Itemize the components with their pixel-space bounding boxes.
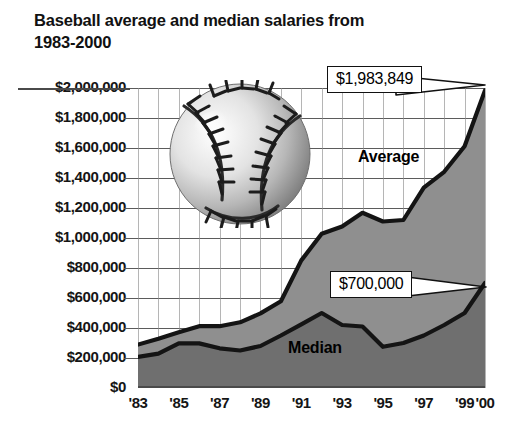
y-axis-label: $1,200,000 [55, 198, 126, 215]
y-axis-label: $0 [110, 378, 126, 395]
y-axis-tick [124, 238, 138, 239]
y-axis-label: $1,000,000 [55, 228, 126, 245]
x-axis-label: '89 [251, 394, 270, 411]
y-axis-tick [124, 358, 138, 359]
page-title: Baseball average and median salaries fro… [34, 10, 454, 54]
x-axis-label: '97 [414, 394, 433, 411]
y-axis-tick [124, 208, 138, 209]
x-axis-label: '85 [169, 394, 188, 411]
y-axis-label: $1,600,000 [55, 138, 126, 155]
y-axis-tick [124, 118, 138, 119]
y-axis-tick [124, 328, 138, 329]
y-axis-label: $200,000 [67, 348, 126, 365]
y-axis-tick [124, 298, 138, 299]
y-axis-label: $2,000,000 [55, 78, 126, 95]
gridline-vertical [485, 88, 486, 388]
y-axis-label: $800,000 [67, 258, 126, 275]
y-axis-label: $400,000 [67, 318, 126, 335]
x-axis: '83'85'87'89'91'93'95'97'99'00 [138, 394, 485, 422]
x-axis-baseline [138, 386, 485, 388]
x-axis-label: '83 [128, 394, 147, 411]
x-axis-label: '99 [455, 394, 474, 411]
series-label-median: Median [288, 339, 342, 357]
x-axis-label: '93 [333, 394, 352, 411]
x-axis-label: '91 [292, 394, 311, 411]
x-axis-label: '87 [210, 394, 229, 411]
y-axis-label: $600,000 [67, 288, 126, 305]
y-axis: $2,000,000$1,800,000$1,600,000$1,400,000… [0, 88, 132, 388]
chart-root: Baseball average and median salaries fro… [0, 0, 526, 431]
y-axis-label: $1,400,000 [55, 168, 126, 185]
callout-leader-line [18, 88, 130, 90]
callout-average-value: $1,983,849 [327, 66, 422, 93]
y-axis-tick [124, 148, 138, 149]
series-label-average: Average [358, 148, 419, 166]
callout-median-value: $700,000 [330, 271, 412, 298]
x-axis-label: '95 [373, 394, 392, 411]
x-axis-label: '00 [475, 394, 494, 411]
y-axis-tick [124, 178, 138, 179]
y-axis-tick [124, 268, 138, 269]
y-axis-label: $1,800,000 [55, 108, 126, 125]
